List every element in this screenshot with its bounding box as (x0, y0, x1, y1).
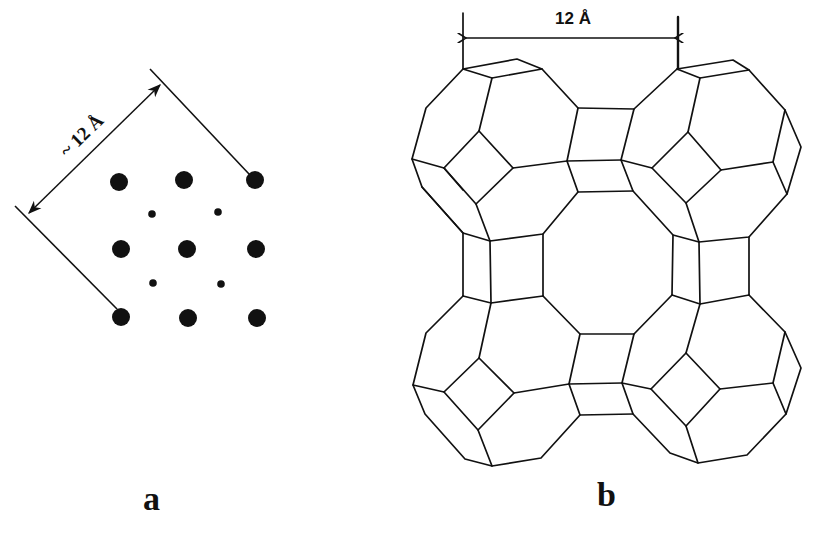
large-lattice-dot (248, 309, 266, 327)
double-4-ring-right (672, 235, 749, 304)
double-4-ring-left (463, 233, 543, 303)
large-lattice-dot (175, 171, 193, 189)
panel-label-a: a (143, 482, 160, 516)
panel-label-b: b (597, 478, 616, 512)
large-lattice-dot (112, 308, 130, 326)
large-lattice-dot (110, 173, 128, 191)
small-lattice-dot (217, 280, 225, 288)
small-lattice-dot (149, 279, 157, 287)
large-lattice-dot (112, 240, 130, 258)
zeolite-figure: ~ 12 Å (0, 0, 813, 534)
large-lattice-dot (247, 240, 265, 258)
dimension-label-b: 12 Å (555, 9, 591, 28)
dimension-arrow (29, 85, 160, 213)
panel-a: ~ 12 Å (15, 69, 266, 327)
dimension-label-a: ~ 12 Å (55, 109, 107, 160)
extension-line (150, 69, 249, 174)
sodalite-cage-top-left (412, 59, 578, 241)
large-lattice-dot (246, 171, 264, 189)
sodalite-cage-bottom-left (413, 296, 580, 466)
small-lattice-dot (148, 210, 156, 218)
large-lattice-dot (179, 309, 197, 327)
extension-line (15, 206, 117, 309)
lattice-dots (110, 171, 266, 327)
figure-drawing: ~ 12 Å (0, 0, 813, 534)
small-lattice-dot (214, 208, 222, 216)
panel-b (412, 13, 801, 466)
large-lattice-dot (178, 240, 196, 258)
sodalite-cage-bottom-right (622, 295, 801, 463)
sodalite-cage-top-right (621, 60, 801, 242)
